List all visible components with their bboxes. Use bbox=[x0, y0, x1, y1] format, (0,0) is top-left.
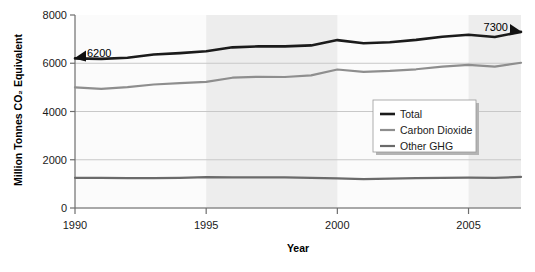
x-tick-label-2005: 2005 bbox=[456, 219, 480, 231]
legend-label: Total bbox=[400, 108, 422, 120]
y-tick-label-0: 0 bbox=[61, 202, 67, 214]
annotation-label-6200: 6200 bbox=[87, 47, 111, 59]
y-tick-label-2000: 2000 bbox=[43, 154, 67, 166]
y-tick-label-8000: 8000 bbox=[43, 9, 67, 21]
y-tick-label-6000: 6000 bbox=[43, 57, 67, 69]
y-axis-tick-labels: 02000400060008000 bbox=[43, 9, 67, 214]
y-tick-label-4000: 4000 bbox=[43, 106, 67, 118]
x-tick-label-2000: 2000 bbox=[325, 219, 349, 231]
legend[interactable]: TotalCarbon DioxideOther GHG bbox=[373, 100, 479, 155]
x-axis-title: Year bbox=[287, 242, 309, 254]
x-tick-label-1995: 1995 bbox=[194, 219, 218, 231]
x-tick-label-1990: 1990 bbox=[63, 219, 87, 231]
y-axis-title: Million Tonnes CO₂ Equivalent bbox=[12, 33, 24, 186]
emissions-line-chart: 02000400060008000 1990199520002005 62007… bbox=[0, 0, 535, 272]
legend-label: Other GHG bbox=[400, 140, 453, 152]
x-axis-tick-labels: 1990199520002005 bbox=[63, 219, 481, 231]
legend-label: Carbon Dioxide bbox=[400, 124, 473, 136]
annotation-label-7300: 7300 bbox=[484, 21, 508, 33]
chart-container: 02000400060008000 1990199520002005 62007… bbox=[0, 0, 535, 272]
